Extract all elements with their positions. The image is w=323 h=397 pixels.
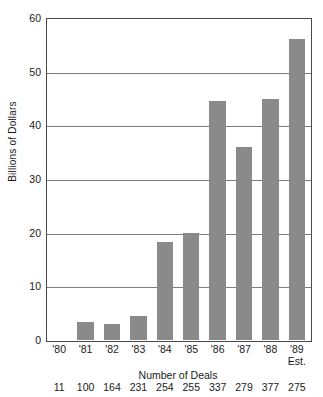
deals-value: 164	[99, 381, 125, 393]
x-axis-year: '86	[211, 343, 225, 355]
y-axis-tick-label: 60	[1, 13, 41, 23]
x-axis-tick-label: '80	[46, 343, 72, 367]
y-axis-tick-labels: 0102030405060	[0, 18, 41, 340]
deals-value: 11	[46, 381, 72, 393]
plot-area	[46, 18, 312, 342]
gridline	[47, 73, 311, 74]
x-axis-tick-label: '85	[178, 343, 204, 367]
x-axis-tick-label: '89Est.	[284, 343, 310, 367]
bar-chart-figure: Billions of Dollars 0102030405060 '80'81…	[0, 0, 323, 397]
x-axis-year: '83	[132, 343, 146, 355]
x-axis-year: '89	[290, 343, 304, 355]
x-axis-year: '85	[184, 343, 198, 355]
x-axis-tick-label: '83	[125, 343, 151, 367]
y-axis-tick-label: 30	[1, 174, 41, 184]
x-axis-year: '80	[52, 343, 66, 355]
deals-values-row: 11100164231254255337279377275	[46, 381, 310, 393]
x-axis-estimate-note: Est.	[284, 355, 310, 367]
y-axis-tick-label: 20	[1, 228, 41, 238]
x-axis-year: '84	[158, 343, 172, 355]
y-axis-tick-label: 50	[1, 67, 41, 77]
gridline	[47, 234, 311, 235]
deals-value: 377	[257, 381, 283, 393]
x-axis-tick-label: '87	[231, 343, 257, 367]
x-axis-year: '81	[79, 343, 93, 355]
gridline	[47, 126, 311, 127]
deals-value: 100	[72, 381, 98, 393]
x-axis-tick-label: '82	[99, 343, 125, 367]
gridline	[47, 287, 311, 288]
deals-value: 254	[152, 381, 178, 393]
deals-value: 279	[231, 381, 257, 393]
x-axis-tick-label: '81	[72, 343, 98, 367]
x-axis-year: '87	[237, 343, 251, 355]
x-axis-tick-label: '84	[152, 343, 178, 367]
x-axis-tick-label: '88	[257, 343, 283, 367]
y-axis-tick-label: 40	[1, 120, 41, 130]
x-axis-year: '82	[105, 343, 119, 355]
deals-value: 231	[125, 381, 151, 393]
x-axis-year: '88	[264, 343, 278, 355]
gridline	[47, 180, 311, 181]
y-axis-tick-label: 0	[1, 335, 41, 345]
deals-value: 275	[284, 381, 310, 393]
deals-value: 337	[204, 381, 230, 393]
x-axis-tick-labels: '80'81'82'83'84'85'86'87'88'89Est.	[46, 343, 310, 367]
x-axis-tick-label: '86	[204, 343, 230, 367]
y-axis-tick-label: 10	[1, 281, 41, 291]
deals-axis-title: Number of Deals	[46, 369, 310, 381]
deals-value: 255	[178, 381, 204, 393]
